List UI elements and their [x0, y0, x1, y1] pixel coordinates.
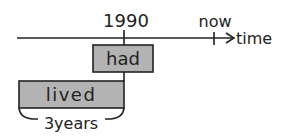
marker-1990: 1990: [103, 10, 149, 45]
marker-label-now: now: [198, 12, 231, 31]
box-lived: lived: [19, 81, 124, 108]
duration-label: 3years: [44, 114, 98, 133]
tense-timeline-diagram: time 1990 now had lived 3years: [0, 0, 290, 140]
axis-label: time: [236, 29, 272, 48]
marker-now: now: [198, 12, 231, 45]
box-label-had: had: [106, 48, 140, 69]
box-had: had: [93, 45, 153, 72]
duration-brace: 3years: [19, 108, 124, 133]
box-label-lived: lived: [46, 84, 97, 105]
marker-label-1990: 1990: [103, 10, 149, 31]
